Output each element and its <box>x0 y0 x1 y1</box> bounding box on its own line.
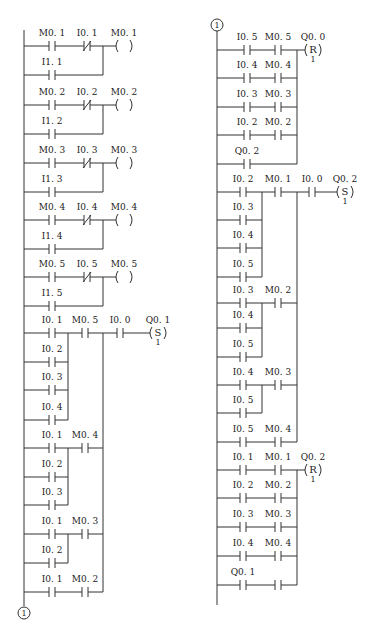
contact-label: I0. 5 <box>237 32 258 42</box>
contact-label: I1. 1 <box>42 57 63 67</box>
normally-open-contact: I0. 5 <box>237 32 258 55</box>
normally-closed-contact: I0. 5 <box>77 259 98 282</box>
contact-label: I0. 4 <box>233 538 254 548</box>
normally-open-contact: I0. 3 <box>42 372 63 395</box>
contact-label: I0. 4 <box>233 230 254 240</box>
coil-left-paren <box>150 327 152 339</box>
normally-open-contact: I1. 5 <box>42 288 63 311</box>
output-coil: Q0. 2S1 <box>333 174 358 206</box>
normally-open-contact: I0. 5 <box>233 339 254 362</box>
normally-open-contact: I1. 2 <box>42 116 63 139</box>
connector-label: 1 <box>214 21 219 30</box>
contact-label: I0. 1 <box>42 430 63 440</box>
normally-open-contact: M0. 4 <box>39 202 66 225</box>
contact-label: M0. 2 <box>39 87 65 97</box>
normally-open-contact: M0. 4 <box>265 60 292 83</box>
normally-open-contact: I0. 4 <box>233 367 254 390</box>
contact-label: M0. 5 <box>265 32 292 42</box>
coil-count: 1 <box>310 475 315 484</box>
contact-label: I0. 4 <box>237 60 258 70</box>
coil-label: M0. 1 <box>111 28 137 38</box>
contact-label: I0. 1 <box>42 516 63 526</box>
normally-open-contact: Q0. 2 <box>235 146 260 169</box>
normally-open-contact: I0. 5 <box>233 424 254 447</box>
connector-circle: 1 <box>211 19 223 31</box>
output-coil: Q0. 0R1 <box>301 32 326 64</box>
contact-label: I0. 4 <box>233 310 254 320</box>
normally-open-contact: M0. 2 <box>39 87 65 110</box>
output-coil: Q0. 1S1 <box>146 315 171 347</box>
connector-circle: 1 <box>18 607 30 619</box>
normally-open-contact: I1. 4 <box>42 231 63 254</box>
contact-label: I0. 0 <box>110 315 131 325</box>
normally-open-contact: M0. 1 <box>39 28 65 51</box>
normally-open-contact: I0. 3 <box>237 89 258 112</box>
coil-right-paren <box>130 271 132 283</box>
contact-label: M0. 1 <box>265 452 291 462</box>
normally-open-contact: I0. 1 <box>42 574 63 597</box>
coil-left-paren <box>337 186 339 198</box>
coil-count: 1 <box>310 55 315 64</box>
normally-open-contact: M0. 5 <box>39 259 66 282</box>
normally-open-contact: I0. 3 <box>233 509 254 532</box>
normally-open-contact: I0. 0 <box>110 315 131 338</box>
normally-open-contact: I0. 4 <box>42 402 63 425</box>
coil-left-paren <box>116 157 118 169</box>
coil-type: R <box>309 44 317 55</box>
contact-label: I1. 4 <box>42 231 63 241</box>
contact-label: Q0. 1 <box>231 567 256 577</box>
coil-right-paren <box>130 214 132 226</box>
coil-label: M0. 3 <box>111 145 138 155</box>
normally-open-contact: M0. 1 <box>265 452 291 475</box>
rung: M0. 4I0. 4M0. 4I1. 4 <box>24 202 137 254</box>
rung: M0. 3I0. 3M0. 3I1. 3 <box>24 145 137 197</box>
normally-open-contact: I0. 1 <box>42 516 63 539</box>
coil-label: Q0. 2 <box>333 174 358 184</box>
contact-label: I0. 3 <box>42 372 63 382</box>
normally-open-contact: I0. 2 <box>42 459 63 482</box>
normally-open-contact: M0. 3 <box>265 509 292 532</box>
normally-open-contact <box>275 580 281 590</box>
contact-label: I0. 2 <box>42 344 63 354</box>
normally-open-contact: M0. 3 <box>72 516 99 539</box>
contact-label: M0. 3 <box>39 145 66 155</box>
coil-label: Q0. 0 <box>301 32 326 42</box>
normally-closed-contact: I0. 2 <box>77 87 98 110</box>
coil-count: 1 <box>155 338 160 347</box>
coil-left-paren <box>116 271 118 283</box>
normally-open-contact: I0. 4 <box>237 60 258 83</box>
normally-open-contact: M0. 4 <box>265 538 292 561</box>
contact-label: I0. 5 <box>233 259 254 269</box>
normally-open-contact: M0. 5 <box>72 315 99 338</box>
normally-open-contact: I0. 3 <box>233 202 254 225</box>
contact-label: I0. 1 <box>77 28 98 38</box>
normally-open-contact: I0. 5 <box>233 395 254 418</box>
normally-open-contact: M0. 3 <box>265 367 292 390</box>
contact-label: M0. 2 <box>265 117 291 127</box>
contact-label: I0. 4 <box>42 402 63 412</box>
contact-label: M0. 4 <box>39 202 66 212</box>
contact-label: M0. 3 <box>265 367 292 377</box>
coil-right-paren <box>319 464 321 476</box>
output-coil: Q0. 2R1 <box>301 452 326 484</box>
coil-type: S <box>155 327 162 338</box>
contact-label: I0. 0 <box>302 174 323 184</box>
coil-type: R <box>309 464 317 475</box>
coil-left-paren <box>116 40 118 52</box>
contact-label: M0. 3 <box>265 509 292 519</box>
normally-open-contact: I0. 4 <box>233 538 254 561</box>
normally-open-contact: I0. 4 <box>233 310 254 333</box>
normally-open-contact: I0. 2 <box>233 174 254 197</box>
normally-open-contact: I0. 1 <box>233 452 254 475</box>
coil-type: S <box>342 186 349 197</box>
output-coil: M0. 3 <box>111 145 138 169</box>
coil-right-paren <box>351 186 353 198</box>
coil-right-paren <box>164 327 166 339</box>
contact-label: I0. 2 <box>42 545 63 555</box>
coil-label: M0. 2 <box>111 87 137 97</box>
contact-label: M0. 1 <box>39 28 65 38</box>
normally-open-contact: I0. 3 <box>42 487 63 510</box>
normally-open-contact: I0. 5 <box>233 259 254 282</box>
contact-label: M0. 2 <box>265 480 291 490</box>
contact-label: M0. 4 <box>265 424 292 434</box>
